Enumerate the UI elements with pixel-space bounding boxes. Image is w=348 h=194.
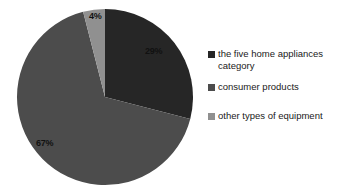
- pie-slices: [17, 9, 193, 185]
- legend-swatch-icon: [208, 51, 215, 58]
- pie-slice-value-label-29: 29%: [145, 46, 162, 56]
- pie-slice-value-label-4: 4%: [89, 11, 102, 21]
- pie-slice-value-label-67: 67%: [36, 138, 53, 148]
- pie-plot-area: 29% 67% 4%: [0, 0, 200, 194]
- legend-item-the-five-home-appliances-category[interactable]: the five home appliances category: [208, 48, 348, 71]
- legend-item-label: other types of equipment: [218, 110, 323, 122]
- legend-item-other-types-of-equipment[interactable]: other types of equipment: [208, 110, 348, 122]
- chart-legend: the five home appliances category consum…: [208, 48, 348, 131]
- legend-swatch-icon: [208, 84, 215, 91]
- legend-item-label: consumer products: [218, 81, 299, 93]
- legend-item-label: the five home appliances category: [218, 48, 348, 71]
- pie-chart-figure: 29% 67% 4% the five home appliances cate…: [0, 0, 348, 194]
- legend-item-consumer-products[interactable]: consumer products: [208, 81, 348, 93]
- pie-svg: [0, 0, 200, 194]
- legend-swatch-icon: [208, 113, 215, 120]
